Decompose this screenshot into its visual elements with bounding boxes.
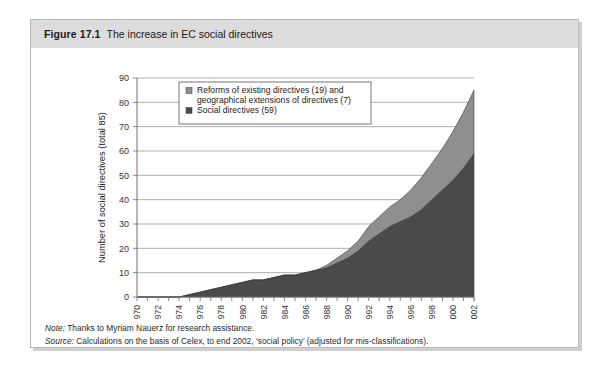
- x-tick-label: 1984: [280, 305, 290, 320]
- x-tick-label: 1976: [195, 305, 205, 320]
- y-tick-label: 50: [119, 171, 129, 181]
- y-tick-label: 40: [119, 195, 129, 205]
- note-line: Note: Thanks to Myriam Nauerz for resear…: [45, 322, 564, 335]
- source-text: Calculations on the basis of Celex, to e…: [74, 336, 428, 346]
- x-tick-label: 1974: [174, 305, 184, 320]
- area-chart: 0102030405060708090197019721974197619781…: [31, 48, 578, 320]
- x-tick-label: 1970: [132, 305, 142, 320]
- legend-swatch: [186, 88, 192, 94]
- source-label: Source:: [45, 336, 74, 346]
- legend-label: Reforms of existing directives (19) and: [197, 85, 344, 95]
- note-text: Thanks to Myriam Nauerz for research ass…: [65, 323, 254, 333]
- x-tick-label: 1996: [406, 305, 416, 320]
- x-tick-label: 1978: [216, 305, 226, 320]
- x-tick-label: 1972: [153, 305, 163, 320]
- x-tick-label: 1980: [238, 305, 248, 320]
- x-tick-label: 2000: [448, 305, 458, 320]
- x-tick-label: 1998: [427, 305, 437, 320]
- x-tick-label: 1982: [259, 305, 269, 320]
- figure-caption-bar: Figure 17.1 The increase in EC social di…: [31, 20, 578, 48]
- y-tick-label: 60: [119, 146, 129, 156]
- y-tick-label: 90: [119, 73, 129, 83]
- chart-plot-area: 0102030405060708090197019721974197619781…: [31, 48, 578, 320]
- x-tick-label: 1994: [385, 305, 395, 320]
- y-tick-label: 10: [119, 268, 129, 278]
- y-tick-label: 70: [119, 122, 129, 132]
- legend-swatch: [186, 108, 192, 114]
- y-tick-label: 20: [119, 244, 129, 254]
- legend-label: Social directives (59): [197, 105, 277, 115]
- x-tick-label: 1992: [364, 305, 374, 320]
- note-label: Note:: [45, 323, 65, 333]
- y-tick-label: 0: [124, 292, 129, 302]
- legend-label: geographical extensions of directives (7…: [197, 95, 351, 105]
- x-tick-label: 1990: [343, 305, 353, 320]
- x-tick-label: 2002: [469, 305, 479, 320]
- y-tick-label: 80: [119, 98, 129, 108]
- y-tick-label: 30: [119, 219, 129, 229]
- figure-number: Figure 17.1: [44, 28, 101, 40]
- y-axis-title: Number of social directives (total 85): [97, 112, 107, 263]
- figure-notes: Note: Thanks to Myriam Nauerz for resear…: [31, 322, 578, 347]
- source-line: Source: Calculations on the basis of Cel…: [45, 335, 564, 348]
- figure-container: Figure 17.1 The increase in EC social di…: [30, 19, 579, 348]
- x-tick-label: 1988: [322, 305, 332, 320]
- x-tick-label: 1986: [301, 305, 311, 320]
- figure-title: The increase in EC social directives: [107, 28, 273, 40]
